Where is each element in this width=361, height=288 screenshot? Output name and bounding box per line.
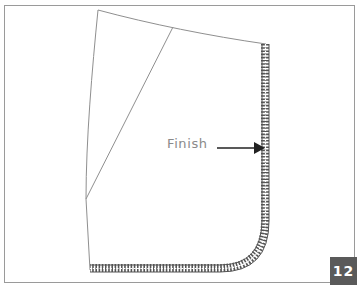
garment-top-edge xyxy=(98,10,266,44)
garment-outline xyxy=(86,10,98,270)
illustration-figure: Finish 12 xyxy=(0,0,361,288)
arrow-right-icon xyxy=(217,142,265,154)
dart-line xyxy=(86,27,173,199)
step-number-badge: 12 xyxy=(330,257,357,285)
callout-label-finish: Finish xyxy=(167,136,208,152)
serged-edge xyxy=(90,44,269,272)
